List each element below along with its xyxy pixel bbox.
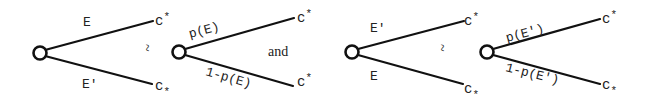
outcome-star: * bbox=[610, 85, 617, 97]
decision-tree-diagram: E E' c* c* ~ p(E) 1-p(E) c* c* and E' E … bbox=[0, 0, 649, 104]
outcome-star: * bbox=[163, 11, 170, 23]
tree-4-upper-label: p(E') bbox=[504, 21, 546, 46]
tree-1-lower-label: E' bbox=[82, 77, 98, 92]
tree-1: E E' c* c* bbox=[34, 11, 171, 98]
tree-4-chance-node-icon bbox=[481, 46, 494, 59]
outcome-star: * bbox=[305, 8, 312, 20]
outcome-star: * bbox=[163, 86, 170, 98]
tree-1-lower-branch bbox=[45, 56, 152, 84]
outcome-letter: c bbox=[297, 10, 305, 26]
tree-2-upper-label: p(E) bbox=[187, 19, 221, 42]
tree-1-lower-outcome: c* bbox=[155, 78, 170, 98]
outcome-star: * bbox=[472, 11, 479, 23]
outcome-letter: c bbox=[155, 78, 163, 94]
tree-3-chance-node-icon bbox=[346, 46, 359, 59]
outcome-letter: c bbox=[464, 81, 472, 97]
outcome-letter: c bbox=[297, 74, 305, 90]
outcome-star: * bbox=[305, 72, 312, 84]
outcome-letter: c bbox=[602, 77, 610, 93]
tree-4: p(E') 1-p(E') c* c* bbox=[481, 9, 618, 97]
tree-4-upper-outcome: c* bbox=[602, 9, 617, 27]
conjunction-and: and bbox=[268, 44, 288, 59]
tree-4-lower-label: 1-p(E') bbox=[504, 60, 561, 88]
tree-3-upper-label: E' bbox=[370, 21, 386, 36]
tree-2-lower-outcome: c* bbox=[297, 72, 312, 90]
tree-3-upper-outcome: c* bbox=[464, 11, 479, 29]
indifference-relation-1: ~ bbox=[139, 44, 154, 52]
tree-2: p(E) 1-p(E) c* c* bbox=[173, 8, 313, 92]
indifference-relation-2: ~ bbox=[434, 44, 449, 52]
outcome-star: * bbox=[610, 9, 617, 21]
tree-2-upper-outcome: c* bbox=[297, 8, 312, 26]
tree-4-lower-outcome: c* bbox=[602, 77, 617, 97]
tree-1-upper-label: E bbox=[83, 15, 91, 30]
outcome-letter: c bbox=[464, 13, 472, 29]
tree-2-chance-node-icon bbox=[173, 46, 186, 59]
tree-3: E' E c* c* bbox=[346, 11, 480, 101]
tree-1-upper-outcome: c* bbox=[155, 11, 170, 29]
outcome-star: * bbox=[472, 89, 479, 101]
tree-1-chance-node-icon bbox=[34, 47, 47, 60]
outcome-letter: c bbox=[602, 11, 610, 27]
outcome-letter: c bbox=[155, 13, 163, 29]
tree-1-upper-branch bbox=[45, 21, 153, 50]
tree-3-lower-label: E bbox=[370, 69, 378, 84]
tree-3-lower-outcome: c* bbox=[464, 81, 479, 101]
